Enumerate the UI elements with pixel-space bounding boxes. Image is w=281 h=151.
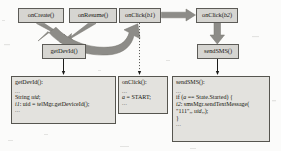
codebox-sendsms-line-2: i2: smsMgr.sendTextMessage( [176,101,267,108]
node-onresume[interactable]: onResume() [69,8,117,23]
codebox-sendsms-line-4: } [176,115,267,122]
codebox-sendsms-header: sendSMS(): [176,79,267,86]
node-onclick-b2-paren: ) [230,12,232,18]
codebox-getdevid-line-2: i1: uid = telMgr.getDeviceId(); [15,101,113,108]
node-onclick-b2-label: onClick( [202,12,224,18]
diagram-canvas: onCreate() onResume() onClick(b1) onClic… [0,0,281,151]
node-onclick-b1[interactable]: onClick(b1) [119,8,161,23]
node-sendsms-label: sendSMS() [204,48,232,54]
codebox-sendsms-line-3: "111",, uid,,); [176,108,267,115]
codebox-sendsms-dots-bottom: ... [176,122,267,127]
node-onresume-label: onResume() [78,12,108,18]
node-onclick-b1-label: onClick( [125,12,147,18]
codebox-getdevid-header: getDevId(): [15,79,113,86]
node-sendsms[interactable]: sendSMS() [197,44,239,59]
node-onclick-b2[interactable]: onClick(b2) [196,8,238,23]
node-oncreate-label: onCreate() [28,12,54,18]
codebox-onclick-header: onClick(): [122,79,165,86]
node-oncreate[interactable]: onCreate() [18,8,64,23]
arrow-onclickb1-to-onclickb2 [162,9,196,21]
codebox-onclick[interactable]: onClick(): ... a = START; ... [118,76,168,114]
codebox-getdevid-line-1: String uid; [15,94,113,101]
codebox-sendsms-line-1: if (a == State.Started) { [176,94,267,101]
codebox-onclick-dots-bottom: ... [122,101,165,106]
codebox-onclick-line-1: a = START; [122,94,165,101]
codebox-getdevid[interactable]: getDevId(): ... String uid; i1: uid = te… [11,76,116,124]
node-getdevid[interactable]: getDevId() [42,44,86,59]
codebox-getdevid-dots-bottom: ... [15,108,113,113]
arrow-onclickb2-to-sendsms [210,22,225,44]
node-onclick-b1-paren: ) [153,12,155,18]
codebox-sendsms[interactable]: sendSMS(): ... if (a == State.Started) {… [172,76,270,142]
node-getdevid-label: getDevId() [50,48,77,54]
